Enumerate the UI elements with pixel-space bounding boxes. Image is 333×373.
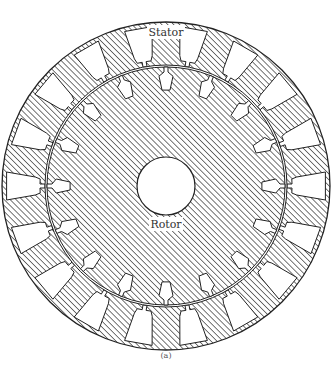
rotor-label-text: Rotor bbox=[150, 218, 182, 231]
rotor-label: Rotor bbox=[149, 217, 183, 231]
electric-machine-cross-section: Stator Rotor (a) bbox=[0, 0, 333, 373]
rotor bbox=[47, 67, 285, 305]
figure-caption: (a) bbox=[160, 351, 171, 360]
stator-label: Stator bbox=[147, 25, 185, 39]
shaft-hole bbox=[137, 157, 195, 215]
stator-label-text: Stator bbox=[149, 26, 185, 39]
